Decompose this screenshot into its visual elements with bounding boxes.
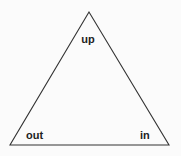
label-out: out <box>26 129 43 141</box>
label-in: in <box>140 129 150 141</box>
triangle-diagram: up out in <box>0 0 181 156</box>
triangle-svg: up out in <box>0 0 181 156</box>
label-up: up <box>81 33 95 45</box>
triangle-outline <box>10 12 169 145</box>
